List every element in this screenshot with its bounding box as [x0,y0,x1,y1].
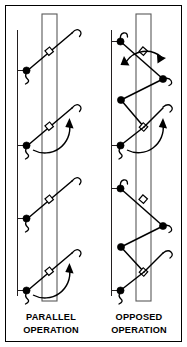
parallel-unit-3-pin-joint [23,215,30,222]
opposed-caption-line-2: OPERATION [111,325,167,335]
diagram-canvas: PARALLEL OPERATION OPPOSED OPERATION [0,0,187,347]
parallel-unit-4-pin-joint [23,287,30,294]
linkage-diagram-figure: PARALLEL OPERATION OPPOSED OPERATION [0,0,187,347]
opposed-caption-line-1: OPPOSED [116,312,163,322]
parallel-unit-2-pin-joint [23,142,30,149]
parallel-caption-line-1: PARALLEL [26,312,76,322]
figure-background [0,0,187,347]
parallel-unit-1-pin-joint [23,67,30,74]
parallel-caption-line-2: OPERATION [23,325,79,335]
